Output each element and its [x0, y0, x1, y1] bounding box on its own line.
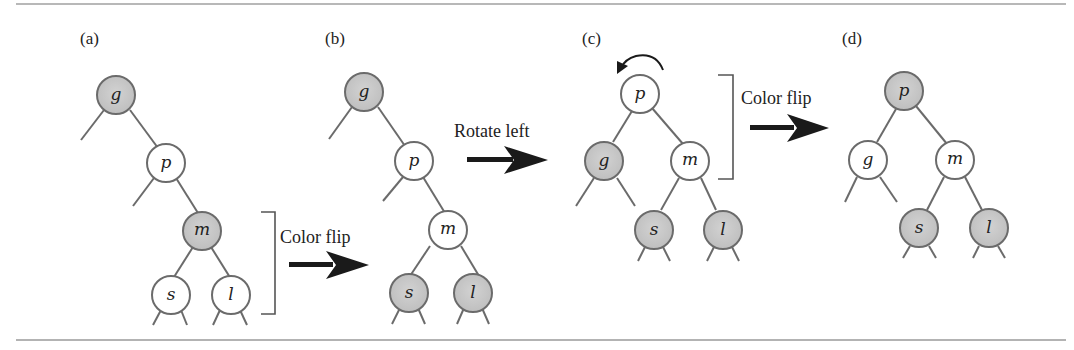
red-black-tree-figure: (a) g p m s — [0, 0, 1074, 350]
node-label: m — [194, 219, 210, 239]
node-label: s — [167, 284, 176, 304]
node-l: l — [212, 276, 250, 314]
panel-b: (b) g p m s — [325, 29, 492, 324]
node-label: s — [915, 217, 924, 237]
operation-label: Color flip — [280, 227, 351, 247]
node-m: m — [183, 212, 221, 250]
node-label: p — [899, 80, 910, 100]
node-label: m — [440, 218, 456, 238]
node-label: g — [863, 149, 874, 169]
bracket — [261, 212, 275, 314]
node-label: l — [228, 284, 233, 304]
node-label: s — [405, 282, 414, 302]
node-label: l — [470, 282, 475, 302]
node-s: s — [152, 276, 190, 314]
node-l: l — [704, 211, 742, 249]
node-p: p — [147, 144, 185, 182]
panel-c: (c) p g m s — [576, 29, 742, 261]
node-label: l — [720, 219, 725, 239]
operation-color-flip-1: Color flip — [280, 227, 369, 279]
node-g: g — [585, 142, 623, 180]
panel-label-b: (b) — [325, 29, 345, 48]
node-m: m — [671, 142, 709, 180]
rotation-arrowhead-icon — [617, 61, 628, 74]
node-s: s — [900, 209, 938, 247]
node-label: p — [161, 152, 172, 172]
panel-d: (d) p g m s — [842, 29, 1008, 258]
node-label: l — [986, 217, 991, 237]
node-p: p — [395, 142, 433, 180]
operation-color-flip-2: Color flip — [741, 88, 829, 142]
panel-label-c: (c) — [582, 29, 601, 48]
node-label: s — [650, 219, 659, 239]
node-g: g — [849, 141, 887, 179]
node-label: m — [682, 149, 698, 169]
node-l: l — [454, 274, 492, 312]
panel-label-a: (a) — [80, 29, 99, 48]
node-s: s — [635, 211, 673, 249]
operation-label: Rotate left — [454, 121, 529, 141]
node-label: p — [635, 83, 646, 103]
node-s: s — [390, 274, 428, 312]
node-label: m — [947, 148, 963, 168]
right-arrow-icon — [467, 146, 548, 174]
node-g: g — [97, 76, 135, 114]
node-m: m — [429, 211, 467, 249]
node-label: g — [111, 84, 122, 104]
node-label: g — [599, 150, 610, 170]
node-p: p — [621, 75, 659, 113]
node-label: p — [409, 150, 420, 170]
bracket — [718, 75, 733, 179]
panel-a: (a) g p m s — [80, 29, 275, 325]
node-g: g — [345, 73, 383, 111]
operation-label: Color flip — [741, 88, 812, 108]
rotation-arrow-icon — [621, 55, 663, 70]
panel-label-d: (d) — [842, 29, 862, 48]
operation-rotate-left: Rotate left — [454, 121, 548, 174]
right-arrow-icon — [750, 114, 829, 142]
node-label: g — [359, 81, 370, 101]
node-m: m — [936, 141, 974, 179]
node-l: l — [970, 209, 1008, 247]
node-p: p — [885, 72, 923, 110]
right-arrow-icon — [289, 251, 369, 279]
